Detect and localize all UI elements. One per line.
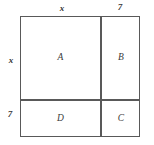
region-d: D — [21, 101, 100, 137]
region-a-label: A — [57, 53, 63, 63]
region-d-label: D — [57, 114, 64, 124]
dimension-label-top-x: x — [52, 4, 72, 13]
region-c: C — [102, 101, 140, 137]
square-partition-diagram: A B D C x 7 x 7 — [0, 0, 154, 145]
region-a: A — [21, 17, 100, 99]
dimension-label-left-7: 7 — [3, 110, 17, 119]
region-b-label: B — [118, 53, 124, 63]
dimension-label-top-7: 7 — [111, 3, 129, 12]
region-c-label: C — [118, 114, 125, 124]
region-b: B — [102, 17, 140, 99]
dimension-label-left-x: x — [4, 56, 18, 65]
